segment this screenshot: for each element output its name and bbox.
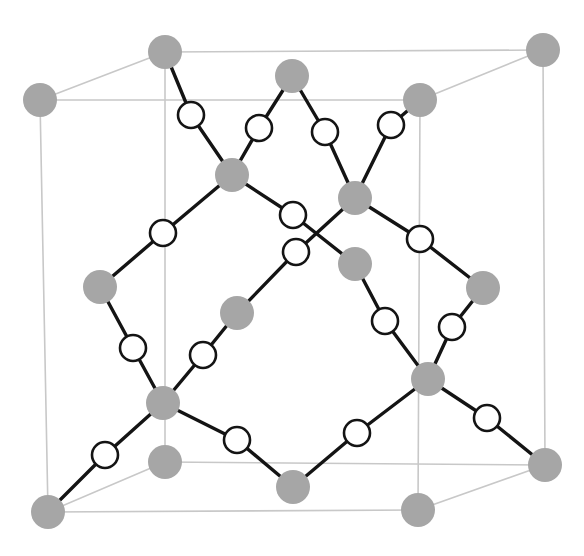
- atom-open-tetra-lower-left-2: [190, 342, 216, 368]
- atom-filled-corner-front-bottom-left: [31, 495, 65, 529]
- atom-open-tetra-lower-left-1: [120, 335, 146, 361]
- atom-open-tetra-upper-left-2: [246, 115, 272, 141]
- atom-open-tetra-mid-right: [407, 226, 433, 252]
- atom-filled-interior-upper-right: [338, 247, 372, 281]
- atom-filled-interior-lower-left: [220, 296, 254, 330]
- atom-filled-interior-lower-left-vertex: [146, 386, 180, 420]
- atom-open-tetra-lower-right-2: [439, 314, 465, 340]
- atom-open-tetra-lower-right-1: [372, 308, 398, 334]
- atom-filled-face-bottom-center: [276, 470, 310, 504]
- atom-open-tetra-upper-left-1: [178, 102, 204, 128]
- atom-open-tetra-mid-lower-center: [283, 239, 309, 265]
- atom-filled-face-right-center: [466, 271, 500, 305]
- atom-filled-corner-back-bottom-left: [148, 445, 182, 479]
- atom-filled-corner-back-top-left: [148, 35, 182, 69]
- atom-filled-interior-lower-right-vertex: [411, 362, 445, 396]
- atom-filled-corner-front-top-right: [403, 83, 437, 117]
- atom-open-tetra-upper-right-1: [312, 119, 338, 145]
- atom-open-tetra-bottom-left-2: [224, 427, 250, 453]
- atom-open-tetra-bottom-right-1: [344, 420, 370, 446]
- atom-filled-corner-back-bottom-right: [528, 448, 562, 482]
- atom-filled-face-back-center: [338, 181, 372, 215]
- atom-filled-face-top-center: [275, 59, 309, 93]
- atom-filled-face-left-center: [83, 270, 117, 304]
- atom-open-tetra-upper-right-2: [378, 112, 404, 138]
- crystal-structure-diagram: [0, 0, 584, 556]
- atom-open-tetra-bottom-right-2: [474, 405, 500, 431]
- atom-filled-face-front-center: [215, 158, 249, 192]
- atom-open-tetra-bottom-left-1: [92, 442, 118, 468]
- crystal-structure-figure: [0, 0, 584, 556]
- atom-filled-corner-back-top-right: [526, 33, 560, 67]
- atom-filled-corner-front-top-left: [23, 83, 57, 117]
- atom-filled-corner-front-bottom-right: [401, 493, 435, 527]
- atom-open-tetra-mid-left: [150, 220, 176, 246]
- atom-open-tetra-mid-upper-center: [280, 202, 306, 228]
